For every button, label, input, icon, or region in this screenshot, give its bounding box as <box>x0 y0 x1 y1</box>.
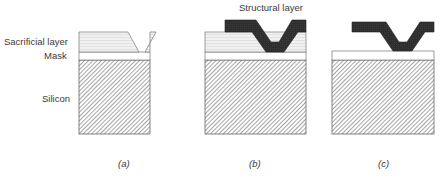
label-silicon: Silicon <box>42 93 70 104</box>
silicon-substrate <box>332 60 434 134</box>
silicon-substrate <box>205 60 306 134</box>
label-sacrificial-layer: Sacrificial layer <box>4 36 68 47</box>
silicon-substrate <box>79 60 150 134</box>
sacrificial-layer-left <box>79 32 139 52</box>
mems-process-diagram <box>0 0 441 179</box>
label-mask: Mask <box>44 50 67 61</box>
caption-a: (a) <box>118 158 130 169</box>
sacrificial-layer-right <box>145 32 156 52</box>
label-structural-layer: Structural layer <box>239 2 303 13</box>
panel-a <box>79 32 156 134</box>
structural-layer <box>352 22 434 51</box>
mask-layer <box>332 51 434 60</box>
panel-b <box>205 20 306 134</box>
caption-b: (b) <box>249 158 261 169</box>
panel-c <box>332 22 434 134</box>
mask-layer <box>205 52 306 60</box>
mask-layer <box>79 52 150 60</box>
caption-c: (c) <box>378 158 389 169</box>
